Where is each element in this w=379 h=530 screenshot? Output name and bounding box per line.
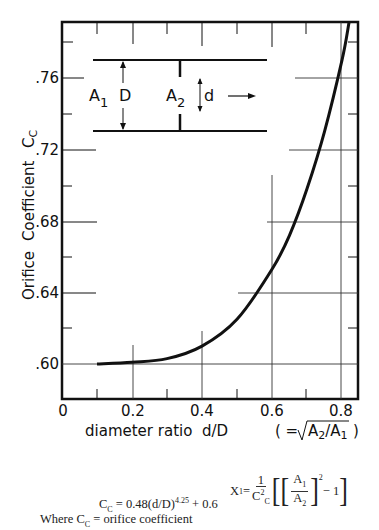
orifice-diagram: A1 D A2 d <box>89 60 267 131</box>
y-axis-ticks <box>62 42 358 328</box>
svg-text:): ) <box>353 422 359 440</box>
x-tick-labels: 0 0.2 0.4 0.6 0.8 <box>58 402 353 420</box>
svg-text:0.2: 0.2 <box>121 402 145 420</box>
svg-text:A1: A1 <box>89 86 108 110</box>
svg-text:.68: .68 <box>35 213 59 231</box>
svg-text:0: 0 <box>58 402 68 420</box>
svg-text:D: D <box>119 86 131 105</box>
svg-text:.64: .64 <box>35 284 59 302</box>
x-axis-ticks <box>97 22 306 399</box>
svg-text:0.6: 0.6 <box>260 402 284 420</box>
x-axis-title: diameter ratio d/D ( = A2/A1 ) <box>85 421 359 442</box>
where-definition: Where CC = orifice coefficient <box>40 512 192 529</box>
svg-text:A2/A1: A2/A1 <box>308 422 348 442</box>
y-axis-symbol: CC <box>20 130 40 148</box>
svg-text:A2: A2 <box>166 86 185 110</box>
svg-text:OrificeCoefficient: OrificeCoefficient <box>20 160 38 300</box>
orifice-coefficient-chart: .76 .72 .68 .64 .60 0 0.2 0.4 0.6 0.8 Or… <box>0 0 379 470</box>
svg-text:diameter ratio d/D: diameter ratio d/D <box>85 422 228 440</box>
cc-curve <box>97 23 349 364</box>
svg-text:.72: .72 <box>35 141 59 159</box>
y-axis-title: OrificeCoefficient <box>20 160 38 300</box>
svg-text:0.4: 0.4 <box>190 402 214 420</box>
svg-text:CC: CC <box>20 130 40 148</box>
cc-formula: CC = 0.48(d/D)4.25 + 0.6 <box>99 496 218 514</box>
x1-formula: X1 = 1C2C [[ A1A2 ]2 − 1 ] <box>230 473 348 509</box>
svg-text:d: d <box>204 86 214 105</box>
svg-text:( =: ( = <box>275 422 298 440</box>
svg-text:0.8: 0.8 <box>329 402 353 420</box>
y-tick-labels: .76 .72 .68 .64 .60 <box>35 69 59 373</box>
svg-text:.76: .76 <box>35 69 59 87</box>
svg-text:.60: .60 <box>35 355 59 373</box>
